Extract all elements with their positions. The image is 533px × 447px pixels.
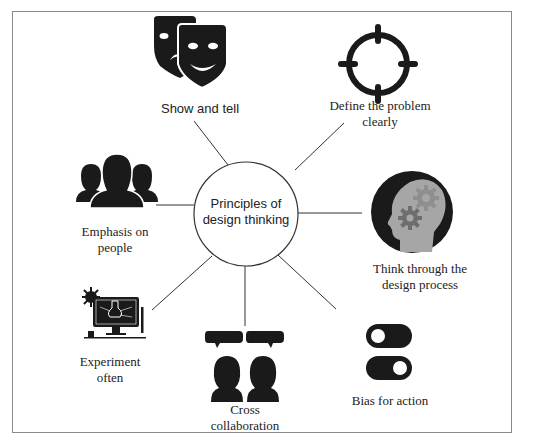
center-label: Principles of design thinking <box>193 196 299 228</box>
node-label-define-problem: Define the problem clearly <box>320 98 440 130</box>
node-label-show-and-tell: Show and tell <box>150 101 250 117</box>
center-label-line2: design thinking <box>193 212 299 228</box>
center-label-line1: Principles of <box>193 196 299 212</box>
node-label-think-through: Think through the design process <box>365 261 475 293</box>
node-label-cross-collaboration: Cross collaboration <box>200 402 290 434</box>
node-label-line1: Cross <box>200 402 290 418</box>
spoke-experiment-often <box>152 256 212 310</box>
node-label-line1: Experiment <box>65 354 155 370</box>
node-label-emphasis-on-people: Emphasis on people <box>70 224 160 256</box>
node-label-line2: clearly <box>320 114 440 130</box>
crosshair-target-icon <box>338 24 418 104</box>
toggle-switches-icon <box>365 323 413 381</box>
people-speech-bubbles-icon <box>205 330 285 402</box>
head-gears-icon <box>370 170 454 254</box>
node-label-line2: collaboration <box>200 418 290 434</box>
node-label-experiment-often: Experiment often <box>65 354 155 386</box>
node-label-line2: often <box>65 370 155 386</box>
node-label-bias-for-action: Bias for action <box>345 393 435 409</box>
computer-flask-icon <box>82 287 148 341</box>
node-label-line1: Emphasis on <box>70 224 160 240</box>
node-label-line1: Think through the <box>365 261 475 277</box>
node-label-line2: people <box>70 240 160 256</box>
spoke-bias-for-action <box>278 255 336 309</box>
spoke-show-and-tell <box>194 121 228 165</box>
people-group-icon <box>76 152 158 208</box>
theater-masks-icon <box>152 16 232 90</box>
spoke-define-problem <box>295 123 344 170</box>
node-label-line2: design process <box>365 277 475 293</box>
node-label-line1: Define the problem <box>320 98 440 114</box>
